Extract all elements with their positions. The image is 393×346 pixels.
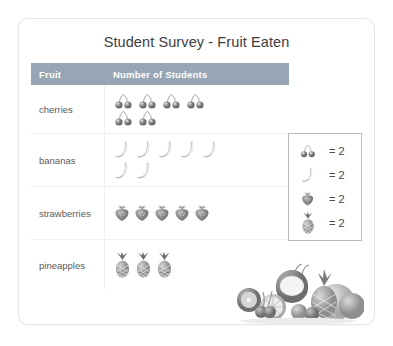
pineapple-icon [155, 252, 174, 278]
page-title: Student Survey - Fruit Eaten [19, 34, 374, 50]
table-row: bananas [31, 134, 289, 187]
banana-icon [295, 167, 321, 184]
legend-value: = 2 [329, 193, 345, 205]
banana-icon [135, 140, 155, 160]
banana-icon [201, 140, 221, 160]
legend-row: = 2 [295, 139, 357, 163]
banana-icon [179, 140, 199, 160]
row-label-cherries: cherries [31, 85, 105, 133]
strawberry-icon [295, 191, 321, 206]
table-row: cherries [31, 85, 289, 134]
pictograph-table: Fruit Number of Students cherriesbananas… [31, 63, 289, 290]
table-row: strawberries [31, 187, 289, 240]
banana-icon [135, 161, 155, 181]
row-label-pineapples: pineapples [31, 240, 105, 290]
column-header-number-of-students: Number of Students [105, 69, 289, 80]
cherry-icon [113, 110, 135, 126]
survey-card: Student Survey - Fruit Eaten Fruit Numbe… [18, 18, 375, 325]
legend-value: = 2 [329, 169, 345, 181]
row-symbols-pineapples [105, 240, 233, 290]
row-label-bananas: bananas [31, 134, 105, 186]
pineapple-icon [113, 252, 132, 278]
legend-value: = 2 [329, 217, 345, 229]
strawberry-icon [193, 204, 211, 222]
legend-key-box: = 2= 2= 2= 2 [288, 133, 362, 241]
legend-row: = 2 [295, 163, 357, 187]
table-header-row: Fruit Number of Students [31, 63, 289, 85]
strawberry-icon [133, 204, 151, 222]
legend-row: = 2 [295, 211, 357, 235]
strawberry-icon [113, 204, 131, 222]
row-symbols-strawberries [105, 187, 221, 239]
row-symbols-cherries [105, 85, 221, 133]
pineapple-icon [134, 252, 153, 278]
row-label-strawberries: strawberries [31, 187, 105, 239]
fruit-photo-decoration [232, 262, 364, 324]
cherry-icon [185, 93, 207, 109]
cherry-icon [161, 93, 183, 109]
strawberry-icon [173, 204, 191, 222]
pineapple-icon [295, 212, 321, 234]
legend-value: = 2 [329, 145, 345, 157]
cherry-icon [137, 93, 159, 109]
banana-icon [157, 140, 177, 160]
row-symbols-bananas [105, 134, 233, 186]
cherry-icon [137, 110, 159, 126]
column-header-fruit: Fruit [31, 69, 105, 80]
legend-row: = 2 [295, 187, 357, 211]
banana-icon [113, 161, 133, 181]
table-body: cherriesbananasstrawberriespineapples [31, 85, 289, 290]
cherry-icon [295, 144, 321, 158]
banana-icon [113, 140, 133, 160]
cherry-icon [113, 93, 135, 109]
strawberry-icon [153, 204, 171, 222]
